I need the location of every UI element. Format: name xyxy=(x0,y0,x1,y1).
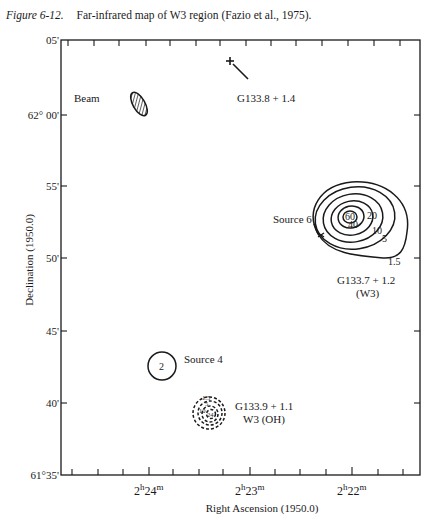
source4-level: 2 xyxy=(159,361,164,372)
w3oh-contour-labels: 1.5 5 10 24 xyxy=(199,394,214,418)
g1337-sublabel: (W3) xyxy=(356,287,380,300)
contour-level-label: 10 xyxy=(199,407,206,414)
x-tick-label-2h22m: 2h22m xyxy=(337,482,367,498)
y-tick-label: 61°35' xyxy=(31,469,59,481)
g1337-label: G133.7 + 1.2 xyxy=(337,274,395,286)
g1338-marker xyxy=(226,57,248,79)
y-axis-title: Declination (1950.0) xyxy=(23,214,36,306)
w3-contour-labels: 60 40 20 10 5 1.5 xyxy=(345,210,401,267)
y-tick-label: 45' xyxy=(46,325,59,337)
contour-level-label: 40 xyxy=(348,219,358,230)
x-axis-title: Right Ascension (1950.0) xyxy=(206,502,319,515)
left-axis-ticks xyxy=(61,115,67,403)
x-tick-label-2h24m: 2h24m xyxy=(134,482,164,498)
contour-level-label: 5 xyxy=(382,233,387,244)
contour-level-label: 20 xyxy=(367,210,377,221)
bottom-axis-ticks xyxy=(72,467,403,475)
x-tick-label-2h23m: 2h23m xyxy=(235,482,265,498)
g1339-sublabel: W3 (OH) xyxy=(243,413,285,426)
y-tick-label: 50' xyxy=(46,252,59,264)
g1338-label: G133.8 + 1.4 xyxy=(237,92,296,104)
g1339-label: G133.9 + 1.1 xyxy=(235,400,293,412)
y-tick-label: 62° 00' xyxy=(28,109,59,121)
right-axis-ticks xyxy=(414,115,420,403)
beam-label: Beam xyxy=(74,92,100,104)
y-tick-label: 05' xyxy=(46,34,59,46)
source6-label: Source 6 xyxy=(273,213,312,225)
contour-level-label: 24 xyxy=(207,411,214,418)
w3-infrared-map: 05' 62° 00' 55' 50' 45' 40' 61°35' 2h24m… xyxy=(0,0,438,528)
contour-level-label: 5 xyxy=(205,400,208,407)
top-axis-ticks xyxy=(68,40,400,46)
w3-contours xyxy=(311,182,408,258)
beam-ellipse xyxy=(127,90,150,119)
source4-label: Source 4 xyxy=(184,353,223,365)
y-tick-label: 40' xyxy=(46,397,59,409)
y-tick-label: 55' xyxy=(46,180,59,192)
contour-level-label: 10 xyxy=(372,225,382,236)
contour-level-label: 1.5 xyxy=(388,256,401,267)
x-tick-labels: 2h24m 2h23m 2h22m xyxy=(134,482,367,498)
